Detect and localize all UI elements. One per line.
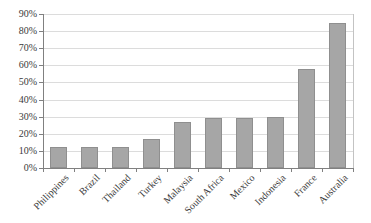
x-axis-labels: PhilippinesBrazilThailandTurkeyMalaysiaS… — [0, 0, 371, 223]
bar-chart-figure: 0%10%20%30%40%50%60%70%80%90% Philippine… — [0, 0, 371, 223]
